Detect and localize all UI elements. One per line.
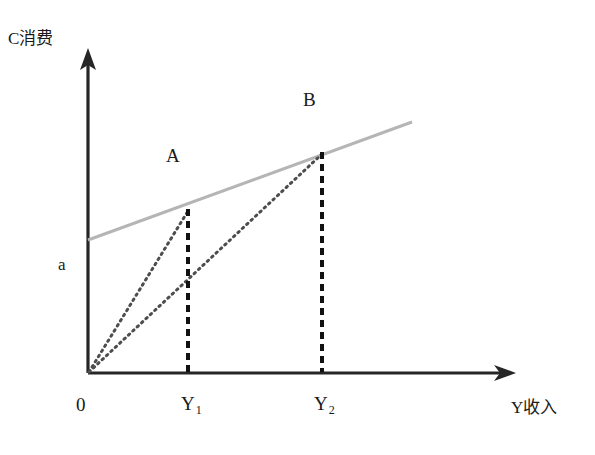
tick-label-y2-subscript: 2: [329, 403, 335, 417]
tick-label-y2-base: Y: [314, 393, 328, 414]
point-label-b: B: [303, 90, 316, 109]
tick-label-y1: Y1: [181, 394, 201, 413]
consumption-function-line: [88, 122, 412, 240]
origin-label: 0: [76, 395, 86, 414]
tick-label-y1-base: Y: [181, 393, 195, 414]
intercept-label-a: a: [58, 256, 66, 273]
consumption-function-diagram: C消费 Y收入 a 0 A B Y1 Y2: [0, 0, 595, 455]
tick-label-y2: Y2: [314, 394, 334, 413]
diagram-canvas: [0, 0, 595, 455]
point-label-a: A: [166, 146, 180, 165]
ray-to-point-b: [89, 154, 322, 372]
y-axis-title: C消费: [8, 30, 53, 47]
tick-label-y1-subscript: 1: [196, 403, 202, 417]
x-axis-title: Y收入: [511, 399, 557, 416]
